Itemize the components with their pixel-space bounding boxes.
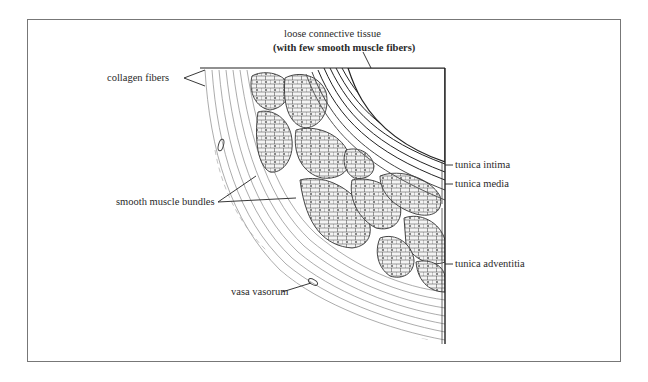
leader-collagen <box>184 70 205 86</box>
label-loose-connective-tissue: loose connective tissue <box>284 28 381 40</box>
label-vasa-vasorum: vasa vasorum <box>231 286 288 298</box>
label-tunica-adventitia: tunica adventitia <box>455 258 525 270</box>
label-tunica-intima: tunica intima <box>455 159 510 171</box>
label-loose-connective-note: (with few smooth muscle fibers) <box>273 42 415 54</box>
leader-smooth-muscle <box>218 176 296 202</box>
vessel-wall <box>203 68 445 340</box>
vasa-vasorum-vessel-2 <box>307 277 318 286</box>
leader-loose-connective <box>363 52 371 68</box>
label-tunica-media: tunica media <box>455 178 509 190</box>
vessel-wall-illustration <box>0 0 648 382</box>
label-smooth-muscle-bundles: smooth muscle bundles <box>116 196 215 208</box>
label-collagen-fibers: collagen fibers <box>107 72 169 84</box>
vasa-vasorum-vessel-1 <box>217 139 225 152</box>
